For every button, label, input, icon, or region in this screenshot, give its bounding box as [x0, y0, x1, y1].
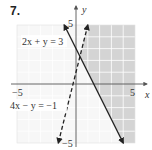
x-min-tick: −5 — [12, 87, 23, 98]
y-min-tick: −5 — [62, 138, 73, 149]
x-axis-label: x — [144, 89, 150, 100]
y-max-tick: 5 — [68, 18, 73, 29]
coordinate-plane: y x −5 5 5 −5 2x + y = 3 4x − y = −1 — [0, 0, 152, 150]
problem-number: 7. — [10, 4, 20, 18]
label-dashed-line-equation: 4x − y = −1 — [10, 100, 57, 111]
label-solid-line-equation: 2x + y = 3 — [22, 36, 63, 47]
y-axis-label: y — [81, 4, 87, 15]
graph-figure: 7. — [0, 0, 152, 150]
x-max-tick: 5 — [130, 87, 135, 98]
